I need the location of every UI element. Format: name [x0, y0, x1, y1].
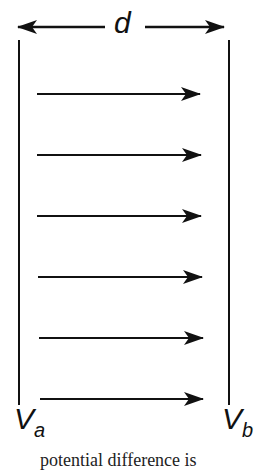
potential-symbol: V — [222, 402, 242, 435]
potential-subscript: b — [242, 419, 253, 441]
potential-subscript: a — [34, 419, 45, 441]
right-plate-potential-label: Vb — [222, 402, 253, 442]
distance-label: d — [110, 6, 135, 40]
caption-partial: potential difference is — [40, 450, 197, 471]
potential-symbol: V — [14, 402, 34, 435]
left-plate-potential-label: Va — [14, 402, 45, 442]
field-lines — [37, 94, 203, 399]
